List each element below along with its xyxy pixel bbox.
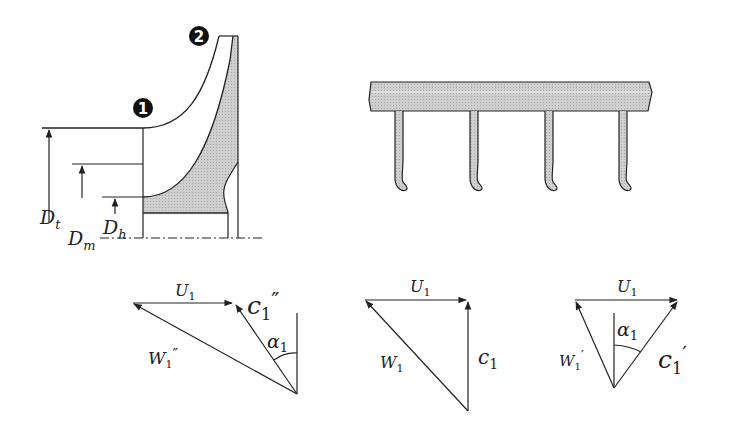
w1-label: W1′: [559, 348, 584, 372]
velocity-triangle-left: U1 c1″ W1″ α1: [133, 281, 297, 394]
mean-diameter-label: Dm: [67, 227, 96, 253]
u1-label: U1: [617, 277, 637, 299]
station-2-badge: 2: [189, 26, 209, 46]
impeller-meridional-section: Dt Dm Dh 1 2: [39, 26, 262, 253]
velocity-triangle-right: U1 α1 c1′ W1′: [559, 277, 687, 388]
c1-label: c1: [478, 345, 498, 372]
station-1-badge: 1: [133, 98, 153, 118]
hub-shaded-region: [143, 36, 238, 213]
shroud-curve: [42, 36, 219, 128]
blade: [395, 111, 407, 191]
blade: [470, 111, 482, 191]
w1-label: W1: [380, 353, 403, 375]
hub-band: [369, 82, 652, 111]
c1-label: c1′: [658, 342, 687, 378]
tip-diameter-label: Dt: [39, 206, 61, 232]
alpha-label: α1: [267, 330, 288, 355]
inducer-blade-cascade: [369, 82, 652, 191]
blade: [545, 111, 557, 191]
w1-label: W1″: [148, 345, 178, 371]
blade: [619, 111, 631, 191]
svg-text:1: 1: [138, 100, 148, 118]
alpha-label: α1: [617, 318, 638, 343]
w1-vector: [576, 302, 614, 388]
velocity-triangle-middle: U1 c1 W1: [365, 277, 498, 411]
u1-label: U1: [175, 281, 195, 303]
u1-label: U1: [410, 277, 430, 299]
svg-text:2: 2: [194, 28, 204, 46]
turbomachinery-diagram: Dt Dm Dh 1 2: [0, 0, 729, 438]
alpha-arc: [614, 345, 641, 352]
c1-label: c1″: [247, 288, 279, 324]
